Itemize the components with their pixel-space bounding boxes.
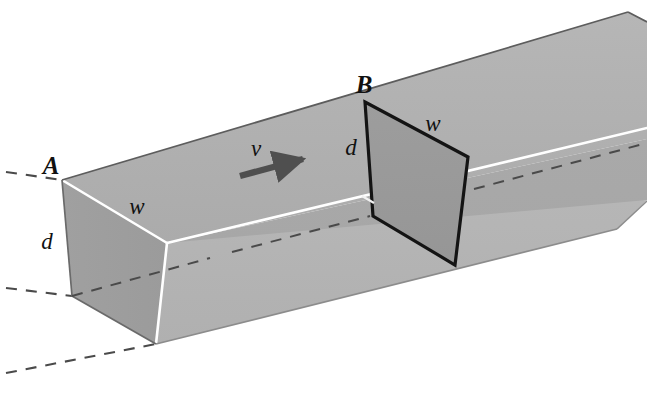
label-width-right: w bbox=[425, 111, 441, 136]
pipe-flow-figure: A d w v B d w bbox=[0, 0, 647, 399]
dashed-guide-bottom bbox=[6, 344, 156, 373]
label-point-a: A bbox=[41, 152, 60, 179]
label-depth-left: d bbox=[41, 229, 53, 254]
label-width-left: w bbox=[129, 194, 145, 219]
label-depth-right: d bbox=[345, 135, 357, 160]
figure-canvas: A d w v B d w bbox=[0, 0, 647, 399]
label-point-b: B bbox=[355, 71, 373, 98]
dashed-guide-middle bbox=[6, 288, 72, 296]
label-velocity: v bbox=[251, 136, 262, 161]
